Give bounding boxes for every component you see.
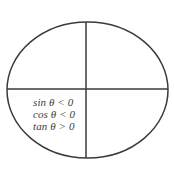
sin-sign-label: sin θ < 0 <box>33 96 87 108</box>
tan-sign-label: tan θ > 0 <box>33 120 87 132</box>
circle-diagram-canvas <box>0 0 174 170</box>
unit-circle-figure: sin θ < 0 cos θ < 0 tan θ > 0 <box>0 0 174 170</box>
quadrant-sign-list: sin θ < 0 cos θ < 0 tan θ > 0 <box>33 96 87 132</box>
cos-sign-label: cos θ < 0 <box>33 108 87 120</box>
circle-outline <box>7 22 168 158</box>
